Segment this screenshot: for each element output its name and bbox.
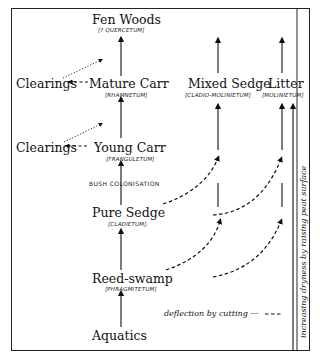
node-mixed-sedge: Mixed Sedge (188, 77, 271, 90)
node-fen-woods: Fen Woods (92, 13, 161, 26)
bush-colonisation-label: BUSH COLONISATION (89, 180, 160, 187)
node-clearings-upper: Clearings (16, 77, 77, 90)
succession-arrows (0, 0, 320, 359)
node-reed-swamp: Reed-swamp (92, 272, 173, 285)
node-litter: Litter (268, 77, 304, 90)
side-axis-label: increasing dryness by raising peat surfa… (299, 166, 309, 338)
node-young-carr: Young Carr (94, 141, 166, 154)
node-clearings-lower: Clearings (16, 141, 77, 154)
node-litter-sub: [MOLINIETUM] (262, 92, 304, 99)
node-fen-woods-sub: [? QUERCETUM] (98, 27, 145, 34)
node-mature-carr-sub: [RHAMNETUM] (105, 92, 148, 99)
node-aquatics: Aquatics (92, 329, 147, 342)
node-pure-sedge: Pure Sedge (92, 206, 165, 219)
node-mixed-sedge-sub: [CLADIO-MOLINIETUM] (185, 92, 251, 99)
node-young-carr-sub: [FRANGULETUM] (106, 156, 155, 163)
legend-deflection: deflection by cutting --- (164, 309, 258, 319)
node-pure-sedge-sub: [CLADIETUM]. (108, 221, 149, 228)
node-mature-carr: Mature Carr (89, 77, 169, 90)
node-reed-swamp-sub: [PHRAGMITETUM] (105, 286, 157, 293)
